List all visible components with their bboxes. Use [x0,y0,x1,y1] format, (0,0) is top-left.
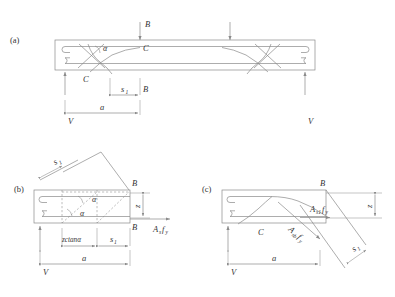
label-dim-z-b: z [132,204,142,209]
panel-c-label: (c) [202,184,212,194]
label-dim-a-a: a [100,102,104,112]
beam-outline-a [55,40,315,70]
top-bar-hook-right-a [300,47,309,53]
label-reaction-v-c: V [231,267,238,277]
bent-bar-a-left-3 [88,44,112,74]
label-dim-z-group-b: z [132,204,142,209]
label-reaction-v-right-a: V [308,116,315,126]
label-reaction-v-b: V [43,267,50,277]
label-dim-z-group-c: z [364,204,374,209]
label-dim-a-b: a [82,253,86,263]
top-bar-hook-c [227,197,236,203]
panel-a: (a) [10,19,315,126]
beam-outline-b [34,190,130,223]
label-rotated-s1-group-b: s 1 [51,154,63,167]
label-dim-s1-sub-b: 1 [114,239,117,245]
label-as-fy-a-b: A [152,224,159,234]
top-bar-hook-b [39,197,48,203]
panel-b-label: (b) [14,184,24,194]
bottom-bar-hook-b [42,211,48,217]
label-as1-fy-fsub-c: y [325,209,329,215]
figure-container: (a) [0,0,395,297]
crack-plane-upper-b [63,152,101,172]
label-node-c-top-a: C [143,43,149,53]
bent-bar-a-right-1 [255,44,281,68]
label-load-b-a: B [145,19,150,29]
label-as-fy-sub-b: s [159,229,161,235]
label-node-b-c: B [320,178,325,188]
panel-c: (c) B C A [202,178,382,277]
bent-bar-a-right-2 [254,44,280,68]
label-dim-a-c: a [272,253,276,263]
label-s1-marker-b-a: B [143,84,148,94]
label-dim-zcot-b: zctanα [61,236,81,244]
label-reaction-v-left-a: V [68,116,75,126]
bent-bar-lower-c [238,197,272,225]
crack-plane-lower-c [300,205,345,268]
label-node-b-bottom-b: B [132,222,137,232]
crack-plane-right-b [101,152,129,190]
label-as1-fy-sub-c: s1 [316,209,321,215]
label-as1-fy-a-c: A [309,204,316,214]
bottom-bar-hook-right-a [300,58,306,64]
bent-bar-a-curve-right [222,48,268,73]
label-dim-z-c: z [364,204,374,209]
panel-b: (b) [14,152,170,277]
label-rotated-s1-group-c: s 1 [349,241,361,254]
top-bar-hook-left-a [62,47,72,53]
label-asb-fy-group-c: A sb f y [285,223,307,244]
panel-a-label: (a) [10,35,20,45]
bent-bar-a-right-3 [247,44,271,74]
beam-shear-diagram: (a) [0,0,395,297]
angle-arc-upper-b [78,196,83,203]
label-dim-s1-a: s [121,84,125,94]
label-node-c-c: C [258,227,264,237]
crack-plane-upper-c [326,190,366,245]
label-dim-s1-sub-a: 1 [126,89,129,95]
bottom-bar-hook-left-a [65,58,72,64]
label-node-b-top-b: B [132,178,137,188]
bent-bar-a-left-2 [78,44,104,68]
bent-bar-a-left-1 [79,44,105,68]
dim-line-rotated-s1-b [41,166,62,177]
bottom-bar-hook-c [230,211,236,217]
label-as-fy-fsub-b: y [165,229,169,235]
label-node-c-bottom-a: C [83,74,89,84]
label-angle-alpha-a: α [103,44,108,53]
